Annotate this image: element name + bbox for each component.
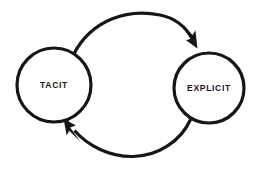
edge-explicit-to-tacit xyxy=(64,119,191,157)
diagram-canvas: TACIT EXPLICIT xyxy=(0,0,261,171)
arc-bottom-path xyxy=(75,120,191,157)
arrowhead-bottom-icon xyxy=(64,119,80,142)
node-tacit[interactable]: TACIT xyxy=(17,48,91,122)
node-explicit[interactable]: EXPLICIT xyxy=(174,53,244,123)
arc-top-path xyxy=(74,13,193,54)
cycle-diagram: TACIT EXPLICIT xyxy=(0,0,261,171)
node-explicit-label: EXPLICIT xyxy=(187,83,231,93)
edge-tacit-to-explicit xyxy=(74,13,198,54)
node-tacit-label: TACIT xyxy=(40,80,68,90)
